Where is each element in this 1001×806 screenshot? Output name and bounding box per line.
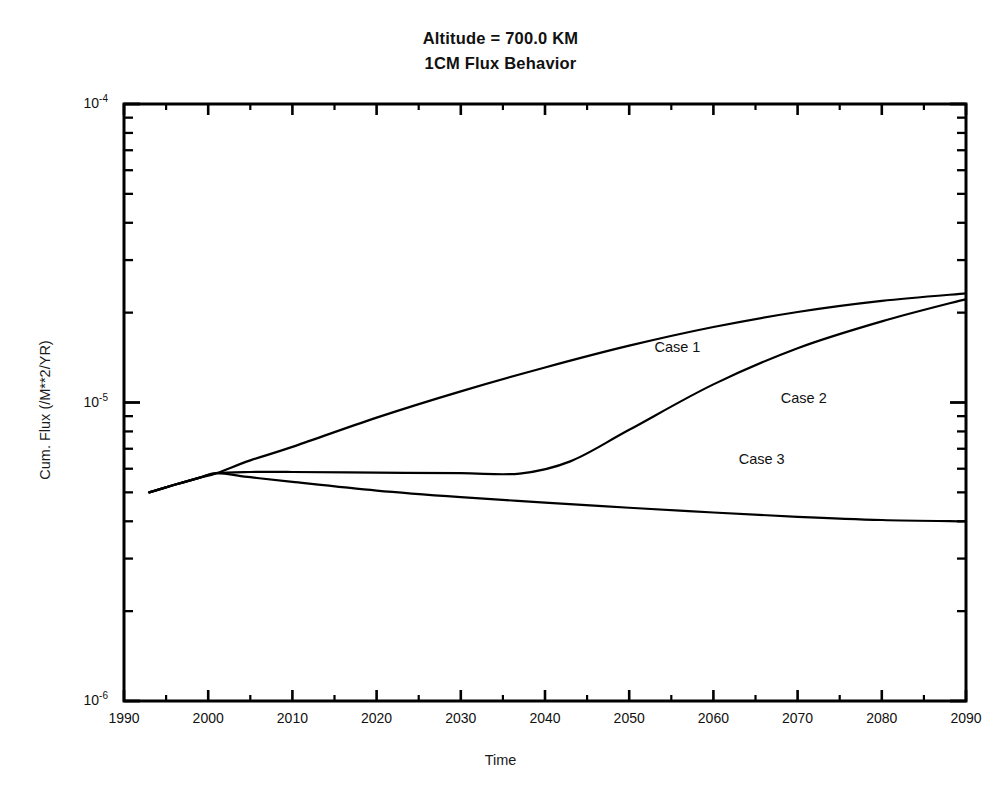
series-line-1 xyxy=(149,293,966,492)
y-tick-label: 10-5 xyxy=(48,392,108,410)
x-tick-label: 2020 xyxy=(347,710,407,726)
series-label-3: Case 3 xyxy=(739,451,785,467)
series-line-2 xyxy=(149,299,966,492)
x-axis-label: Time xyxy=(0,752,1001,768)
axes-frame xyxy=(124,104,966,701)
plot-area xyxy=(0,0,1001,806)
x-tick-label: 2010 xyxy=(262,710,322,726)
x-tick-label: 2080 xyxy=(852,710,912,726)
y-axis-label: Cum. Flux (/M**2/YR) xyxy=(37,280,53,540)
x-tick-label: 1990 xyxy=(94,710,154,726)
x-tick-label: 2030 xyxy=(431,710,491,726)
x-tick-label: 2070 xyxy=(768,710,828,726)
series-label-2: Case 2 xyxy=(781,390,827,406)
flux-behavior-figure: Altitude = 700.0 KM 1CM Flux Behavior Cu… xyxy=(0,0,1001,806)
data-curves xyxy=(149,293,966,521)
y-tick-label: 10-4 xyxy=(48,93,108,111)
series-line-3 xyxy=(149,473,966,521)
axis-ticks xyxy=(124,104,966,701)
plot-frame-rect xyxy=(124,104,966,701)
series-label-1: Case 1 xyxy=(654,339,700,355)
x-tick-label: 2090 xyxy=(936,710,996,726)
x-tick-label: 2050 xyxy=(599,710,659,726)
x-tick-label: 2000 xyxy=(178,710,238,726)
y-tick-label: 10-6 xyxy=(48,690,108,708)
x-tick-label: 2040 xyxy=(515,710,575,726)
x-tick-label: 2060 xyxy=(683,710,743,726)
